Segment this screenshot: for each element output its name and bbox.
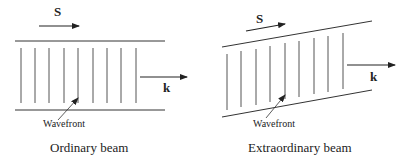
ordinary-caption: Ordinary beam	[50, 140, 128, 156]
ordinary-wavefront-label: Wavefront	[43, 118, 85, 129]
ordinary-wavefront-lines	[21, 48, 136, 103]
extraordinary-beam-bottom-edge	[222, 90, 372, 117]
diagram-canvas	[0, 0, 407, 162]
extraordinary-s-arrow	[246, 24, 285, 31]
extraordinary-s-label: S	[256, 11, 263, 27]
extraordinary-wavefront-label: Wavefront	[253, 118, 295, 129]
extraordinary-k-label: k	[370, 69, 377, 85]
ordinary-s-label: S	[54, 4, 61, 20]
extraordinary-beam-top-edge	[222, 21, 372, 47]
extraordinary-caption: Extraordinary beam	[248, 140, 352, 156]
ordinary-wavefront-pointer	[58, 98, 78, 120]
ordinary-beam-diagram	[15, 26, 187, 120]
ordinary-k-label: k	[163, 80, 170, 96]
